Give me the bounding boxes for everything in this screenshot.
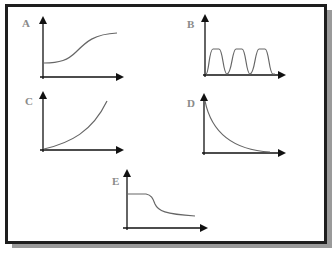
panel-c: C bbox=[25, 93, 122, 152]
panel-e-curve bbox=[128, 194, 195, 216]
panel-d-label: D bbox=[187, 97, 195, 109]
panel-b: B bbox=[187, 16, 284, 77]
panel-a-label: A bbox=[22, 17, 30, 29]
panel-b-curve bbox=[206, 49, 275, 74]
panel-d-curve bbox=[205, 101, 270, 152]
panel-b-label: B bbox=[187, 18, 195, 30]
panel-a-curve bbox=[44, 33, 117, 63]
panel-e-label: E bbox=[112, 175, 119, 187]
panel-a: A bbox=[22, 17, 122, 79]
graphs-diagram: A B C D E bbox=[0, 0, 336, 253]
panel-d: D bbox=[187, 95, 284, 155]
panel-e: E bbox=[112, 171, 206, 230]
panel-c-curve bbox=[44, 101, 107, 149]
panel-c-label: C bbox=[25, 95, 33, 107]
